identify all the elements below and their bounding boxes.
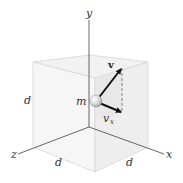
velocity-label: v [107,59,115,70]
cube [33,55,148,172]
mass-label: m [76,95,86,108]
cube-side-label-left: d [24,94,31,107]
cube-diagram: y z x d d d m v v x [0,0,183,183]
vx-label-subscript: x [110,118,114,126]
vx-label: v [103,112,110,125]
z-axis-label: z [10,148,17,161]
cube-side-label-bottom-left: d [55,156,62,169]
y-axis-label: y [85,7,93,20]
cube-side-label-bottom-right: d [126,156,133,169]
x-axis-label: x [166,148,173,161]
particle-sphere-icon [90,95,102,107]
cube-left-face [33,62,95,172]
